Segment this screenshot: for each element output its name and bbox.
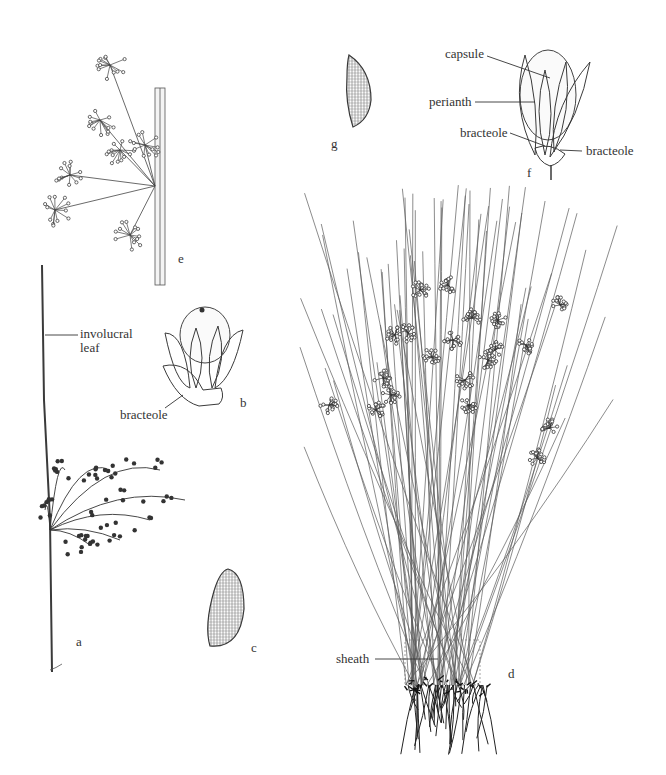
floret: [322, 403, 325, 406]
panel-letter-g: g: [331, 136, 338, 152]
floret: [132, 461, 136, 465]
floret: [493, 315, 496, 318]
floret: [122, 71, 125, 74]
floret: [97, 68, 100, 71]
floret: [551, 420, 554, 423]
floret: [448, 331, 451, 334]
floret: [113, 471, 117, 475]
label-bracteole-f-left: bracteole: [460, 126, 508, 140]
panel-a-stem: [42, 265, 52, 672]
floret: [94, 109, 97, 112]
floret: [95, 542, 99, 546]
floret: [92, 127, 95, 130]
floret: [531, 451, 534, 454]
floret: [434, 349, 437, 352]
floret: [387, 377, 390, 380]
floret: [414, 281, 417, 284]
floret: [169, 496, 173, 500]
floret: [118, 488, 122, 492]
floret: [468, 384, 471, 387]
floret: [427, 287, 430, 290]
floret: [121, 498, 125, 502]
floret: [396, 326, 399, 329]
floret: [483, 366, 486, 369]
floret: [155, 458, 159, 462]
floret: [97, 59, 100, 62]
floret: [373, 379, 376, 382]
floret: [456, 375, 459, 378]
floret: [439, 287, 442, 290]
floret: [556, 425, 559, 428]
floret: [528, 339, 531, 342]
floret: [385, 373, 388, 376]
floret: [130, 248, 133, 251]
panel-letter-e: e: [178, 251, 184, 267]
floret: [430, 361, 433, 364]
floret: [128, 153, 131, 156]
floret: [83, 537, 87, 541]
floret: [530, 342, 533, 345]
label-involucral-line1: involucral: [80, 327, 133, 341]
floret: [110, 162, 113, 165]
floret: [540, 460, 543, 463]
floret: [118, 227, 121, 230]
floret: [455, 380, 458, 383]
floret: [114, 237, 117, 240]
floret: [438, 357, 441, 360]
floret: [384, 400, 387, 403]
floret: [147, 153, 150, 156]
floret: [484, 351, 487, 354]
floret: [109, 475, 113, 479]
leaf: [358, 252, 406, 685]
floret: [120, 159, 123, 162]
panel-d-roots: [401, 676, 497, 755]
floret: [457, 384, 460, 387]
floret: [461, 382, 464, 385]
floret: [93, 473, 97, 477]
floret: [89, 510, 93, 514]
floret: [381, 404, 384, 407]
floret: [552, 430, 555, 433]
panel-letter-a: a: [76, 634, 82, 650]
floret: [472, 402, 475, 405]
floret: [75, 181, 78, 184]
floret: [68, 164, 71, 167]
floret: [159, 460, 163, 464]
floret: [69, 160, 72, 163]
floret: [114, 230, 117, 233]
leaf: [305, 193, 475, 685]
floret: [380, 411, 383, 414]
panel-b-capsule: [180, 307, 230, 363]
floret: [88, 542, 92, 546]
floret: [559, 296, 562, 299]
panel-letter-d: d: [508, 666, 515, 682]
floret: [518, 342, 521, 345]
label-sheath: sheath: [336, 652, 369, 666]
floret: [405, 327, 408, 330]
panel-b-drawing: [163, 307, 243, 406]
floret: [447, 277, 450, 280]
floret: [52, 466, 56, 470]
floret: [387, 330, 390, 333]
floret: [540, 453, 543, 456]
floret: [44, 202, 47, 205]
floret: [396, 338, 399, 341]
floret: [367, 404, 370, 407]
floret: [457, 335, 460, 338]
floret: [461, 399, 464, 402]
floret: [156, 146, 159, 149]
floret: [49, 218, 52, 221]
floret: [392, 390, 395, 393]
floret: [105, 77, 108, 80]
floret: [504, 316, 507, 319]
floret: [52, 224, 55, 227]
floret: [377, 401, 380, 404]
floret: [420, 284, 423, 287]
floret: [501, 322, 504, 325]
floret: [390, 401, 393, 404]
floret: [425, 349, 428, 352]
floret: [541, 427, 544, 430]
floret: [486, 365, 489, 368]
floret: [88, 115, 91, 118]
floret: [79, 550, 83, 554]
